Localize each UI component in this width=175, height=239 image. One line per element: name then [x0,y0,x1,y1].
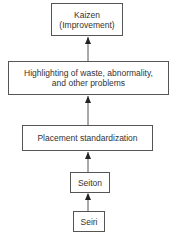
node-kaizen: Kaizen (Improvement) [51,3,123,36]
node-seiri: Seiri [73,211,105,232]
arrowhead-icon [85,193,91,200]
node-seiri-label: Seiri [80,217,97,227]
node-highlighting: Highlighting of waste, abnormality, and … [8,61,169,95]
node-placement-label: Placement standardization [37,133,137,143]
arrowhead-icon [85,96,91,103]
node-kaizen-line1: Kaizen [59,10,114,20]
arrowhead-icon [85,152,91,159]
node-highlighting-line1: Highlighting of waste, abnormality, [24,68,153,78]
node-placement-standardization: Placement standardization [22,125,153,151]
arrowhead-icon [85,37,91,44]
node-kaizen-line2: (Improvement) [59,20,114,30]
node-seiton-label: Seiton [78,178,102,188]
node-highlighting-line2: and other problems [24,78,153,88]
node-seiton: Seiton [70,172,110,193]
